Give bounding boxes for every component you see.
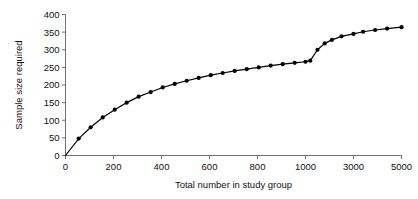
data-point-marker: [330, 38, 334, 42]
data-point-marker: [197, 76, 201, 80]
data-point-marker: [89, 125, 93, 129]
data-series-markers: [77, 25, 404, 141]
data-point-marker: [233, 69, 237, 73]
y-tick-label: 50: [49, 132, 60, 143]
data-point-marker: [221, 71, 225, 75]
data-point-marker: [185, 79, 189, 83]
x-axis-ticks: [66, 156, 402, 160]
data-point-marker: [173, 82, 177, 86]
x-axis-title: Total number in study group: [175, 179, 292, 190]
x-tick-label: 400: [154, 161, 170, 172]
data-point-marker: [308, 59, 312, 63]
y-axis-ticks: [62, 15, 66, 156]
data-point-marker: [257, 65, 261, 69]
data-point-marker: [149, 90, 153, 94]
y-tick-label: 150: [44, 97, 60, 108]
y-tick-label: 300: [44, 44, 60, 55]
chart-figure: 050100150200250300350400 020040060080010…: [0, 0, 418, 199]
y-axis-group: 050100150200250300350400: [44, 9, 66, 161]
data-point-marker: [161, 85, 165, 89]
x-tick-label: 600: [202, 161, 218, 172]
x-tick-label: 5000: [391, 161, 412, 172]
y-tick-label: 350: [44, 27, 60, 38]
line-chart-plot: 050100150200250300350400 020040060080010…: [0, 0, 418, 199]
data-point-marker: [101, 115, 105, 119]
y-tick-label: 100: [44, 115, 60, 126]
data-point-marker: [339, 34, 343, 38]
data-point-marker: [399, 25, 403, 29]
data-point-marker: [209, 73, 213, 77]
y-tick-label: 200: [44, 79, 60, 90]
data-point-marker: [303, 60, 307, 64]
data-point-marker: [385, 27, 389, 31]
data-point-marker: [77, 136, 81, 140]
data-point-marker: [113, 108, 117, 112]
data-point-marker: [269, 64, 273, 68]
data-point-marker: [293, 61, 297, 65]
x-tick-label: 3000: [343, 161, 364, 172]
y-tick-label: 400: [44, 9, 60, 20]
x-tick-label: 1000: [295, 161, 316, 172]
y-tick-label: 0: [54, 150, 59, 161]
data-series-line: [66, 27, 402, 155]
data-point-marker: [125, 101, 129, 105]
x-tick-label: 0: [63, 161, 68, 172]
x-axis-group: 0200400600800100030005000: [63, 156, 412, 172]
x-tick-label: 800: [250, 161, 266, 172]
y-tick-label: 250: [44, 62, 60, 73]
data-point-marker: [351, 32, 355, 36]
y-axis-tick-labels: 050100150200250300350400: [44, 9, 60, 161]
x-tick-label: 200: [106, 161, 122, 172]
data-point-marker: [137, 95, 141, 99]
y-axis-title: Sample size required: [13, 40, 24, 129]
x-axis-tick-labels: 0200400600800100030005000: [63, 161, 412, 172]
data-point-marker: [315, 48, 319, 52]
data-point-marker: [373, 28, 377, 32]
data-point-marker: [281, 62, 285, 66]
data-point-marker: [323, 41, 327, 45]
data-point-marker: [361, 30, 365, 34]
data-point-marker: [245, 67, 249, 71]
